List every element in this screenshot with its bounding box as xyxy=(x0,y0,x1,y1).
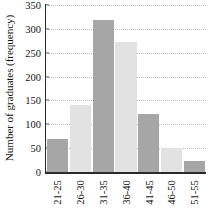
bar xyxy=(70,105,91,172)
x-tick-label: 51-55 xyxy=(176,174,212,212)
bar xyxy=(47,139,68,172)
bar-series xyxy=(46,5,206,172)
bar xyxy=(138,114,159,172)
bar xyxy=(184,161,205,172)
y-tick-label: 300 xyxy=(25,23,41,34)
y-tick-label: 100 xyxy=(25,119,41,130)
y-axis-title-text: Number of graduates (frequency) xyxy=(3,15,15,161)
y-tick-label: 250 xyxy=(25,47,41,58)
bar xyxy=(161,148,182,172)
x-tick-label-text: 51-55 xyxy=(189,180,200,205)
y-tick-label: 150 xyxy=(25,95,41,106)
x-axis-tick-labels: 21-2526-3031-3536-4041-4546-5051-55 xyxy=(46,174,206,212)
y-tick-label: 350 xyxy=(25,0,41,11)
y-axis-title: Number of graduates (frequency) xyxy=(0,0,18,176)
y-axis-tick-labels: 050100150200250300350 xyxy=(18,0,43,180)
bar xyxy=(93,20,114,172)
y-tick-label: 200 xyxy=(25,71,41,82)
y-tick-label: 50 xyxy=(31,143,42,154)
bar xyxy=(115,42,136,172)
bar-chart: Number of graduates (frequency) 05010015… xyxy=(0,0,212,212)
plot-area xyxy=(46,5,206,172)
